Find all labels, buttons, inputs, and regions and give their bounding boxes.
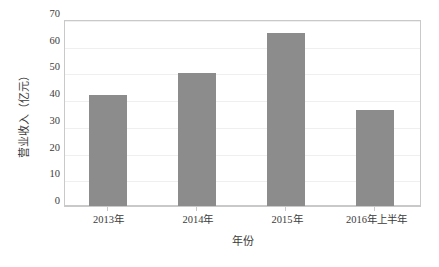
x-axis-tick-labels: 2013年 2014年 2015年 2016年上半年	[64, 212, 421, 230]
bar-2014[interactable]	[178, 73, 216, 206]
plot-area	[64, 20, 421, 207]
bar-2015[interactable]	[267, 33, 305, 206]
bar-2013[interactable]	[89, 95, 127, 206]
y-tick-label: 0	[32, 195, 60, 207]
bar-chart: 营业收入（亿元） 70 60 50 40 30 20 10 0 2013年	[0, 0, 439, 267]
y-tick-label: 40	[32, 88, 60, 100]
x-tick-mark	[285, 207, 286, 211]
x-tick-mark	[107, 207, 108, 211]
x-tick-mark	[196, 207, 197, 211]
y-tick-label: 20	[32, 142, 60, 154]
x-tick-mark	[374, 207, 375, 211]
x-tick-label-2013: 2013年	[93, 212, 124, 227]
x-tick-label-2015: 2015年	[272, 212, 303, 227]
x-tick-label-2014: 2014年	[182, 212, 213, 227]
x-tick-label-2016-h1: 2016年上半年	[346, 212, 407, 227]
y-tick-label: 60	[32, 35, 60, 47]
y-tick-label: 70	[32, 8, 60, 20]
x-axis-title: 年份	[64, 234, 421, 248]
y-tick-label: 50	[32, 61, 60, 73]
y-tick-label: 10	[32, 168, 60, 180]
bar-2016-h1[interactable]	[356, 110, 394, 206]
bars-layer	[65, 21, 420, 206]
y-tick-label: 30	[32, 115, 60, 127]
y-axis-tick-labels: 70 60 50 40 30 20 10 0	[32, 14, 60, 213]
